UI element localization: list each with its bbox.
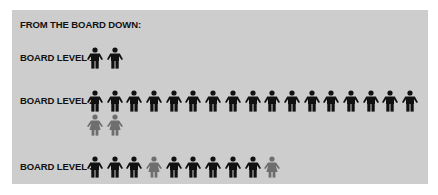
male-person-icon [204, 90, 222, 112]
male-person-icon [342, 90, 360, 112]
male-person-icon [165, 156, 183, 178]
male-person-icon [224, 156, 242, 178]
board-level-2-row-2 [86, 114, 124, 136]
male-person-icon [224, 90, 242, 112]
male-person-icon [86, 47, 104, 69]
board-level-2-row [86, 90, 419, 112]
male-person-icon [322, 90, 340, 112]
male-person-icon [204, 156, 222, 178]
male-person-icon [362, 90, 380, 112]
male-person-icon [86, 156, 104, 178]
male-person-icon [184, 90, 202, 112]
male-person-icon [125, 90, 143, 112]
male-person-icon [303, 90, 321, 112]
male-person-icon [165, 90, 183, 112]
male-person-icon [283, 90, 301, 112]
male-person-icon [244, 156, 262, 178]
board-level-3-row [86, 156, 281, 178]
male-person-icon [145, 90, 163, 112]
female-person-icon [86, 114, 104, 136]
male-person-icon [381, 90, 399, 112]
board-composition-panel: FROM THE BOARD DOWN: BOARD LEVEL 1: BOAR… [12, 10, 428, 184]
female-person-icon [145, 156, 163, 178]
male-person-icon [184, 156, 202, 178]
board-level-1-row [86, 47, 124, 69]
female-person-icon [106, 114, 124, 136]
panel-title: FROM THE BOARD DOWN: [20, 19, 141, 30]
male-person-icon [106, 47, 124, 69]
male-person-icon [86, 90, 104, 112]
male-person-icon [244, 90, 262, 112]
female-person-icon [263, 156, 281, 178]
male-person-icon [263, 90, 281, 112]
male-person-icon [106, 156, 124, 178]
male-person-icon [125, 156, 143, 178]
male-person-icon [401, 90, 419, 112]
male-person-icon [106, 90, 124, 112]
